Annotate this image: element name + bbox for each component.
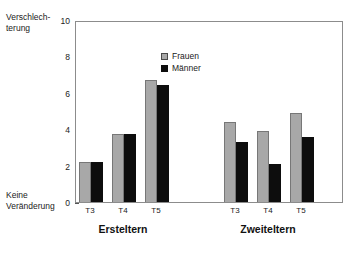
y-tick-label: 0	[48, 198, 70, 208]
y-tick-label: 6	[48, 89, 70, 99]
x-group-label: Zweiteltern	[208, 223, 328, 235]
bar-frauen	[224, 122, 236, 202]
bar-maenner	[124, 134, 136, 202]
bar-frauen	[112, 134, 124, 202]
legend-label-frauen: Frauen	[172, 50, 199, 62]
legend-label-maenner: Männer	[172, 62, 201, 74]
bar-maenner	[91, 162, 103, 202]
y-tick-label: 2	[48, 162, 70, 172]
legend-item-frauen: Frauen	[161, 50, 201, 62]
plot-area: Frauen Männer	[75, 21, 343, 203]
x-group-label: Ersteltern	[63, 223, 183, 235]
legend-item-maenner: Männer	[161, 62, 201, 74]
x-tick-label: T5	[136, 206, 176, 215]
chart-figure: Verschlech- terung Keine Veränderung 024…	[0, 0, 360, 269]
y-tick-label: 10	[48, 16, 70, 26]
bar-maenner	[269, 164, 281, 202]
bar-frauen	[257, 131, 269, 202]
bar-maenner	[236, 142, 248, 202]
plot-inner	[76, 22, 342, 202]
y-tick-label: 8	[48, 52, 70, 62]
bar-frauen	[290, 113, 302, 202]
bar-maenner	[302, 137, 314, 202]
x-tick-label: T5	[281, 206, 321, 215]
bar-maenner	[157, 85, 169, 202]
y-tick-label: 4	[48, 125, 70, 135]
y-tick-mark	[75, 203, 79, 204]
legend-swatch-frauen-icon	[161, 53, 168, 60]
legend-swatch-maenner-icon	[161, 65, 168, 72]
bar-frauen	[145, 80, 157, 202]
bar-frauen	[79, 162, 91, 202]
chart-legend: Frauen Männer	[161, 50, 201, 74]
